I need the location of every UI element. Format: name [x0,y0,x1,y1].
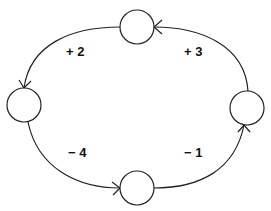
node-bottom [120,171,154,205]
edge-label-bottom-right: − 1 [184,145,202,160]
edge-right-to-top [154,27,248,91]
node-left [7,88,41,122]
cycle-diagram: + 2 + 3 − 4 − 1 [0,0,271,211]
node-right [230,91,264,125]
edge-label-bottom-left: − 4 [68,145,87,160]
edge-label-top-right: + 3 [184,44,202,59]
node-top [120,10,154,44]
edge-label-top-left: + 2 [66,44,84,59]
